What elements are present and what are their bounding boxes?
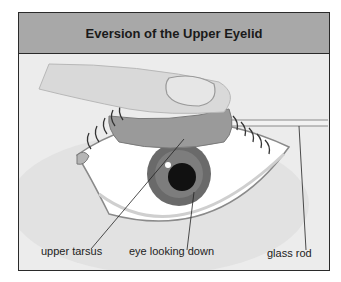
eyelid-eversion-illustration — [19, 54, 328, 270]
figure-header: Eversion of the Upper Eyelid — [19, 13, 329, 54]
label-upper-tarsus: upper tarsus — [41, 245, 102, 257]
label-glass-rod: glass rod — [267, 247, 312, 259]
figure-frame: Eversion of the Upper Eyelid — [18, 12, 330, 271]
pupil — [168, 163, 196, 191]
finger-icon — [39, 64, 230, 113]
label-eye-looking-down: eye looking down — [129, 245, 214, 257]
upper-tarsus — [109, 109, 232, 148]
glass-rod-icon — [219, 120, 328, 126]
figure-title: Eversion of the Upper Eyelid — [86, 26, 263, 41]
